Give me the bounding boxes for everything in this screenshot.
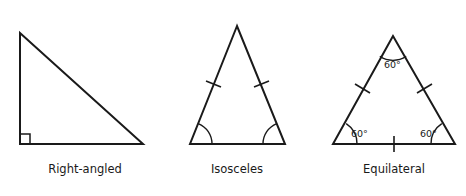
right-angle-marker-icon bbox=[20, 134, 30, 144]
triangle-types-diagram: Right-angled Isosceles 60° bbox=[0, 0, 466, 196]
isosceles-triangle-group: Isosceles bbox=[190, 26, 285, 176]
right-angled-caption: Right-angled bbox=[48, 162, 122, 176]
equilateral-apex-angle-label: 60° bbox=[384, 59, 401, 70]
equilateral-right-angle-label: 60° bbox=[420, 128, 437, 139]
right-angled-triangle-group: Right-angled bbox=[20, 33, 143, 176]
right-angled-triangle-outline bbox=[20, 33, 143, 144]
isosceles-left-base-angle-arc-icon bbox=[198, 124, 212, 144]
equilateral-left-angle-label: 60° bbox=[351, 128, 368, 139]
isosceles-right-base-angle-arc-icon bbox=[263, 124, 277, 144]
equilateral-triangle-group: 60° 60° 60° Equilateral bbox=[333, 36, 455, 176]
equilateral-caption: Equilateral bbox=[363, 162, 425, 176]
isosceles-caption: Isosceles bbox=[211, 162, 263, 176]
